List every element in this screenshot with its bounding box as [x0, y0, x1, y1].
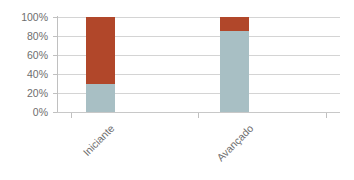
y-tick-label-40: 40%	[0, 69, 48, 79]
y-tick-label-60: 60%	[0, 50, 48, 60]
bar-stack-iniciante[interactable]	[86, 17, 115, 112]
y-tick-label-80: 80%	[0, 31, 48, 41]
chart-container: 100% 80% 60% 40% 20% 0% Iniciante Avança…	[0, 0, 354, 180]
bar-segment-iniciante-serie-1[interactable]	[86, 84, 115, 113]
y-tick-mark-60	[53, 55, 58, 56]
x-tick-mark-left	[71, 113, 72, 118]
y-tick-mark-40	[53, 74, 58, 75]
bar-segment-avancado-serie-1[interactable]	[220, 31, 249, 112]
bar-stack-avancado[interactable]	[220, 17, 249, 112]
x-tick-mark-right	[326, 113, 327, 118]
y-axis-line	[57, 16, 58, 113]
plot-area	[57, 17, 340, 112]
x-tick-label-avancado: Avançado	[205, 122, 256, 173]
bar-segment-iniciante-serie-2[interactable]	[86, 17, 115, 84]
y-tick-mark-100	[53, 17, 58, 18]
y-tick-mark-80	[53, 36, 58, 37]
x-tick-label-iniciante: Iniciante	[66, 122, 117, 173]
y-tick-label-100: 100%	[0, 12, 48, 22]
x-tick-mark-mid	[198, 113, 199, 118]
y-tick-mark-20	[53, 93, 58, 94]
y-tick-label-20: 20%	[0, 88, 48, 98]
bar-segment-avancado-serie-2[interactable]	[220, 17, 249, 31]
y-tick-label-0: 0%	[0, 107, 48, 117]
